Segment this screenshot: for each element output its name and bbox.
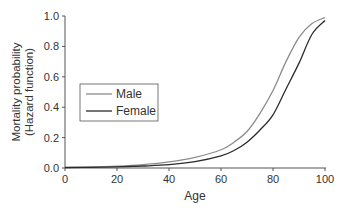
x-tick-label: 60 <box>215 173 227 185</box>
y-tick-label: 0.4 <box>44 101 59 113</box>
y-tick-label: 0.8 <box>44 40 59 52</box>
x-tick-label: 100 <box>316 173 334 185</box>
axes: 0204060801000.00.20.40.60.81.0AgeMortali… <box>10 10 334 203</box>
x-tick-label: 40 <box>163 173 175 185</box>
x-tick-label: 20 <box>111 173 123 185</box>
legend-label: Male <box>116 87 142 101</box>
y-tick-label: 1.0 <box>44 10 59 22</box>
x-tick-label: 80 <box>267 173 279 185</box>
y-tick-label: 0.0 <box>44 162 59 174</box>
hazard-chart: 0204060801000.00.20.40.60.81.0AgeMortali… <box>0 0 344 212</box>
x-axis-label: Age <box>184 189 206 203</box>
legend-label: Female <box>116 104 156 118</box>
legend: MaleFemale <box>80 84 158 121</box>
y-tick-label: 0.2 <box>44 132 59 144</box>
y-tick-label: 0.6 <box>44 71 59 83</box>
y-axis-label: Mortality probability(Hazard function) <box>10 42 35 141</box>
x-tick-label: 0 <box>62 173 68 185</box>
